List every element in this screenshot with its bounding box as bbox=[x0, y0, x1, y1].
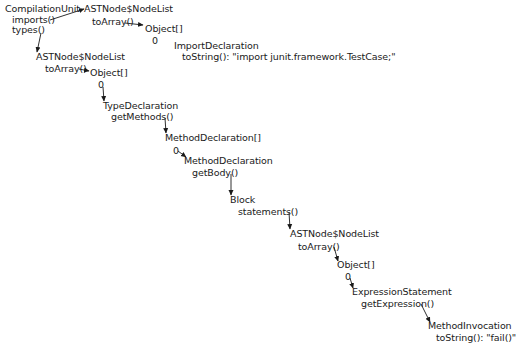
types-array-title: Object[] bbox=[90, 67, 128, 78]
type-declaration-title: TypeDeclaration bbox=[103, 100, 178, 111]
methods-array-index: 0 bbox=[173, 145, 179, 156]
arrow-types bbox=[37, 33, 41, 52]
types-array-index: 0 bbox=[98, 79, 104, 90]
block-title: Block bbox=[230, 194, 255, 205]
imports-array-title: Object[] bbox=[145, 23, 183, 34]
statements-nodelist-title: ASTNode$NodeList bbox=[290, 228, 379, 239]
statements-array-title: Object[] bbox=[337, 259, 375, 270]
type-declaration-getmethods: getMethods() bbox=[111, 111, 173, 122]
compilation-unit-title: CompilationUnit bbox=[5, 3, 80, 14]
import-declaration-tostring: toString(): "import junit.framework.Test… bbox=[182, 51, 395, 62]
types-nodelist-toarray: toArray() bbox=[45, 63, 87, 74]
compilation-unit-types-method: types() bbox=[12, 24, 45, 35]
imports-nodelist-toarray: toArray() bbox=[92, 16, 134, 27]
method-declaration-getbody: getBody() bbox=[192, 167, 238, 178]
statements-nodelist-toarray: toArray() bbox=[298, 241, 340, 252]
expression-statement-getexpression: getExpression() bbox=[361, 298, 434, 309]
methods-array-title: MethodDeclaration[] bbox=[165, 132, 261, 143]
imports-array-index: 0 bbox=[152, 35, 158, 46]
method-invocation-title: MethodInvocation bbox=[428, 320, 512, 331]
types-nodelist-title: ASTNode$NodeList bbox=[36, 51, 125, 62]
block-statements: statements() bbox=[238, 206, 298, 217]
method-invocation-tostring: toString(): "fail()" bbox=[436, 332, 516, 343]
expression-statement-title: ExpressionStatement bbox=[352, 286, 452, 297]
import-declaration-title: ImportDeclaration bbox=[174, 40, 259, 51]
imports-nodelist-title: ASTNode$NodeList bbox=[84, 3, 173, 14]
statements-array-index: 0 bbox=[345, 271, 351, 282]
method-declaration-title: MethodDeclaration bbox=[184, 155, 273, 166]
